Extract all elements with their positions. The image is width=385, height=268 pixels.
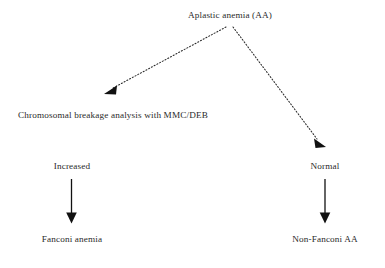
edge-root-to-test — [104, 27, 226, 95]
flowchart-canvas: Aplastic anemia (AA) Chromosomal breakag… — [0, 0, 385, 268]
node-root-aplastic-anemia: Aplastic anemia (AA) — [188, 10, 272, 20]
edge-increased-to-fanconi — [66, 179, 77, 224]
node-chromosomal-breakage-test: Chromosomal breakage analysis with MMC/D… — [18, 110, 208, 120]
node-result-normal: Normal — [311, 161, 340, 171]
edge-normal-to-nonfanconi — [320, 179, 331, 224]
flowchart-connectors — [0, 0, 385, 268]
node-result-increased: Increased — [54, 161, 91, 171]
node-outcome-non-fanconi-aa: Non-Fanconi AA — [292, 234, 358, 244]
edge-root-to-normal — [233, 27, 326, 148]
node-outcome-fanconi-anemia: Fanconi anemia — [42, 234, 103, 244]
